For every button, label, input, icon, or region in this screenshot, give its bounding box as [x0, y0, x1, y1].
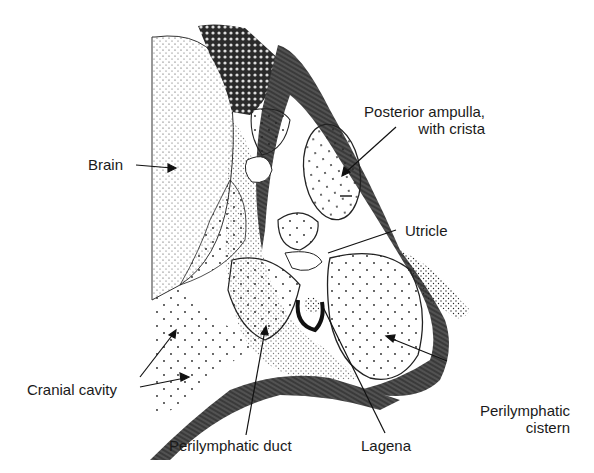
- label-lagena: Lagena: [361, 437, 411, 454]
- utricle: [278, 213, 318, 250]
- label-perilymphatic-duct: Perilymphatic duct: [169, 437, 292, 454]
- label-utricle: Utricle: [405, 222, 448, 239]
- label-posterior-ampulla-line1: Posterior ampulla,: [333, 103, 485, 120]
- label-perilymphatic-cistern-line1: Perilymphatic: [448, 402, 570, 419]
- lagena-body: [304, 297, 320, 313]
- leader-utricle: [328, 230, 396, 253]
- label-posterior-ampulla: Posterior ampulla, with crista: [333, 103, 485, 137]
- label-brain: Brain: [88, 156, 123, 173]
- utricle-lower: [285, 252, 322, 271]
- upper-chamber-2: [245, 157, 272, 183]
- upper-chamber-1: [251, 109, 290, 155]
- label-cranial-cavity: Cranial cavity: [27, 381, 117, 398]
- label-posterior-ampulla-line2: with crista: [333, 120, 485, 137]
- label-perilymphatic-cistern-line2: cistern: [448, 419, 570, 436]
- label-perilymphatic-cistern: Perilymphatic cistern: [448, 402, 570, 436]
- perilymphatic-cistern: [328, 254, 423, 380]
